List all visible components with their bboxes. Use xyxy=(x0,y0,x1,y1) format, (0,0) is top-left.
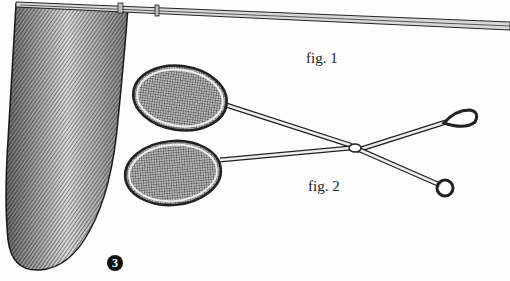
fig-2-label: fig. 2 xyxy=(308,178,340,195)
engraving-drawing xyxy=(0,0,510,281)
hand-net xyxy=(6,4,128,270)
fig-3-badge: 3 xyxy=(107,255,123,271)
sieve-tongs xyxy=(122,60,476,209)
illustration-plate: fig. 1 fig. 2 3 xyxy=(0,0,510,281)
fig-1-label: fig. 1 xyxy=(306,50,338,67)
